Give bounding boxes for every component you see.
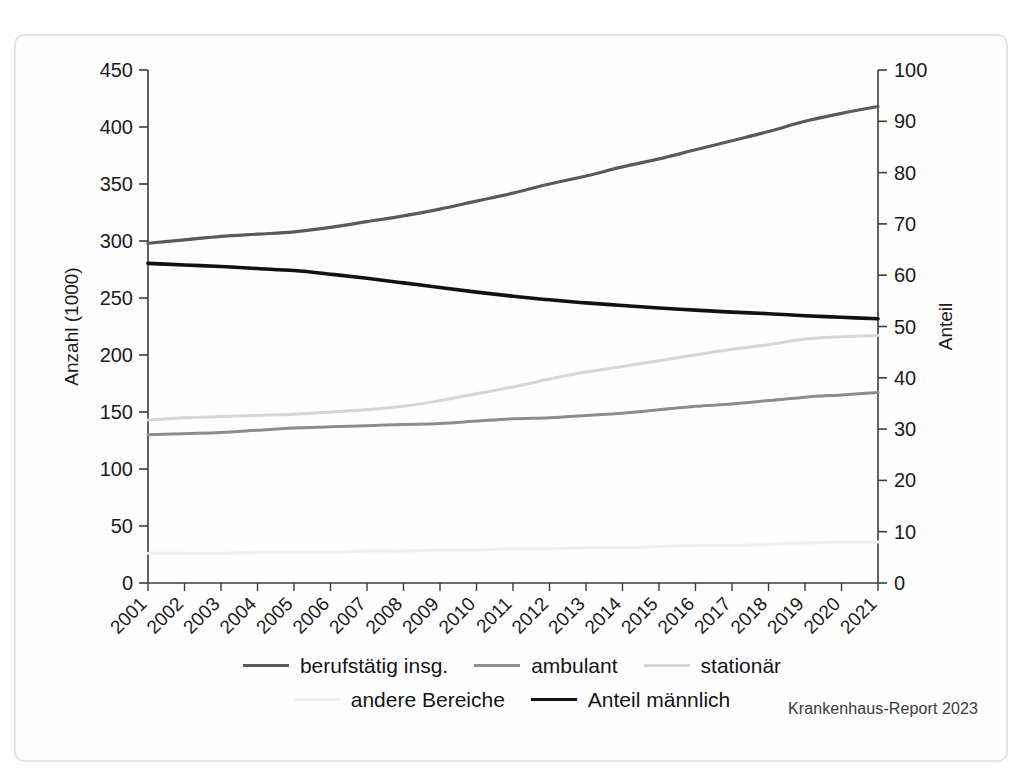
y-axis-right-tick-label: 80 <box>894 162 916 184</box>
x-axis-tick-label: 2001 <box>106 593 151 638</box>
x-axis-tick-label: 2020 <box>800 593 845 638</box>
y-axis-right-tick-label: 70 <box>894 213 916 235</box>
legend-item-berufst-tig-insg[interactable]: berufstätig insg. <box>243 655 448 676</box>
source-note: Krankenhaus-Report 2023 <box>788 700 978 718</box>
x-axis-tick-label: 2002 <box>143 593 188 638</box>
x-axis-tick-label: 2018 <box>727 593 772 638</box>
legend-label-anteil-m-nnlich: Anteil männlich <box>588 689 730 710</box>
x-axis-tick-label: 2006 <box>289 593 334 638</box>
y-axis-left-tick-label: 450 <box>100 59 133 81</box>
series-line-anteil-m-nnlich <box>148 263 878 318</box>
x-axis-tick-label: 2013 <box>544 593 589 638</box>
x-axis-tick-label: 2003 <box>179 593 224 638</box>
legend-swatch-andere-bereiche <box>294 698 340 701</box>
x-axis-tick-label: 2009 <box>398 593 443 638</box>
y-axis-left-tick-label: 350 <box>100 173 133 195</box>
y-axis-right-tick-label: 50 <box>894 316 916 338</box>
legend-label-andere-bereiche: andere Bereiche <box>351 689 505 710</box>
x-axis-tick-label: 2005 <box>252 593 297 638</box>
y-axis-right-tick-label: 90 <box>894 110 916 132</box>
y-axis-right-tick-label: 10 <box>894 521 916 543</box>
legend-swatch-berufst-tig-insg <box>243 664 289 667</box>
legend-swatch-ambulant <box>474 664 520 667</box>
y-axis-right-tick-label: 60 <box>894 264 916 286</box>
legend-item-station-r[interactable]: stationär <box>644 655 782 676</box>
y-axis-left-tick-label: 400 <box>100 116 133 138</box>
legend-swatch-station-r <box>644 664 690 667</box>
x-axis-tick-label: 2012 <box>508 593 553 638</box>
y-axis-left-tick-label: 0 <box>122 572 133 594</box>
y-axis-right-tick-label: 0 <box>894 572 905 594</box>
y-axis-right-tick-label: 20 <box>894 469 916 491</box>
series-line-andere-bereiche <box>148 542 878 554</box>
x-axis-tick-label: 2019 <box>763 593 808 638</box>
x-axis-tick-label: 2007 <box>325 593 370 638</box>
y-axis-left-tick-label: 300 <box>100 230 133 252</box>
x-axis-tick-label: 2004 <box>216 593 261 638</box>
x-axis-tick-label: 2016 <box>654 593 699 638</box>
x-axis-tick-label: 2008 <box>362 593 407 638</box>
figure-root: 0501001502002503003504004500102030405060… <box>0 0 1024 782</box>
x-axis-tick-label: 2014 <box>581 593 626 638</box>
y-axis-right-tick-label: 100 <box>894 59 927 81</box>
x-axis-tick-label: 2017 <box>690 593 735 638</box>
legend-row: berufstätig insg.ambulantstationär <box>0 648 1024 682</box>
series-line-station-r <box>148 336 878 420</box>
legend-item-ambulant[interactable]: ambulant <box>474 655 617 676</box>
x-axis-tick-label: 2010 <box>435 593 480 638</box>
legend-swatch-anteil-m-nnlich <box>531 698 577 701</box>
legend-label-berufst-tig-insg: berufstätig insg. <box>300 655 448 676</box>
y-axis-right-tick-label: 30 <box>894 418 916 440</box>
y-axis-left-tick-label: 100 <box>100 458 133 480</box>
y-axis-left-tick-label: 50 <box>111 515 133 537</box>
y-axis-left-tick-label: 200 <box>100 344 133 366</box>
series-line-ambulant <box>148 393 878 435</box>
y-axis-right-tick-label: 40 <box>894 367 916 389</box>
y-axis-left-title: Anzahl (1000) <box>61 267 82 385</box>
y-axis-left-tick-label: 150 <box>100 401 133 423</box>
x-axis-tick-label: 2021 <box>836 593 881 638</box>
series-line-berufst-tig-insg <box>148 106 878 243</box>
y-axis-left-tick-label: 250 <box>100 287 133 309</box>
x-axis-tick-label: 2015 <box>617 593 662 638</box>
legend-label-ambulant: ambulant <box>531 655 617 676</box>
legend-item-anteil-m-nnlich[interactable]: Anteil männlich <box>531 689 730 710</box>
legend-label-station-r: stationär <box>701 655 782 676</box>
y-axis-right-title: Anteil <box>935 303 956 351</box>
x-axis-tick-label: 2011 <box>472 593 516 637</box>
legend-item-andere-bereiche[interactable]: andere Bereiche <box>294 689 505 710</box>
